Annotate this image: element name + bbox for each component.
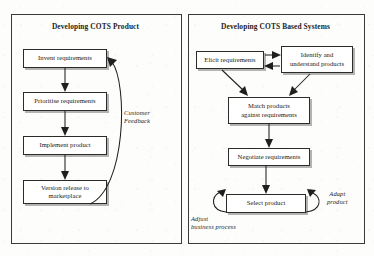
arrow-elicit-to-match — [222, 70, 248, 96]
arrow-negotiate-to-select — [262, 166, 270, 194]
arrow-prioritise-to-implement — [61, 111, 69, 136]
arrow-customer-feedback-loop — [90, 57, 122, 204]
arrow-match-to-negotiate — [265, 124, 273, 148]
arrow-identify-to-match — [289, 74, 310, 96]
arrow-implement-to-release — [61, 155, 69, 180]
arrow-elicit-to-identify — [265, 51, 281, 59]
arrow-adjust-business-loop — [214, 189, 226, 212]
arrow-invent-to-prioritise — [61, 68, 69, 92]
arrow-identify-to-elicit — [264, 62, 280, 70]
arrow-adapt-product-loop — [306, 189, 319, 212]
connector-layer — [0, 0, 374, 256]
